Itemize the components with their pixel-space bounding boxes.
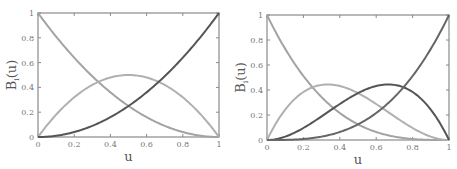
x-axis-label: u xyxy=(124,149,132,164)
x-tick-label: 0.4 xyxy=(104,140,117,149)
x-tick-label: 0 xyxy=(35,140,40,149)
x-tick-label: 1 xyxy=(216,140,221,149)
x-tick-label: 0.6 xyxy=(140,140,153,149)
y-tick-label: 0.6 xyxy=(21,59,34,68)
x-tick-label: 0.4 xyxy=(333,143,346,152)
series-line-b2 xyxy=(267,84,449,140)
bernstein-basis-figure: 00.20.40.60.8100.20.40.60.81uBi(u) 00.20… xyxy=(0,0,457,169)
x-tick-label: 0.2 xyxy=(297,143,310,152)
y-tick-label: 0.2 xyxy=(250,111,263,120)
y-tick-label: 0.6 xyxy=(250,61,263,70)
x-tick-label: 1 xyxy=(446,143,451,152)
cubic-bernstein-chart: 00.20.40.60.8100.20.40.60.81uBi(u) xyxy=(233,11,452,167)
y-tick-label: 0.8 xyxy=(250,36,263,45)
y-tick-label: 1 xyxy=(258,11,263,20)
x-tick-label: 0.2 xyxy=(68,140,81,149)
y-tick-label: 1 xyxy=(29,9,34,18)
x-tick-label: 0.6 xyxy=(370,143,383,152)
x-tick-label: 0.8 xyxy=(406,143,419,152)
series-line-b0 xyxy=(267,15,449,140)
x-tick-label: 0.8 xyxy=(176,140,189,149)
series-line-b3 xyxy=(267,15,449,140)
y-tick-label: 0.8 xyxy=(21,34,34,43)
x-tick-label: 0 xyxy=(264,143,269,152)
y-axis-label: Bi(u) xyxy=(4,60,21,91)
y-tick-label: 0.2 xyxy=(21,108,34,117)
y-tick-label: 0.4 xyxy=(250,86,263,95)
y-tick-label: 0.4 xyxy=(21,83,34,92)
quadratic-bernstein-chart: 00.20.40.60.8100.20.40.60.81uBi(u) xyxy=(4,9,222,164)
y-axis-label: Bi(u) xyxy=(233,62,250,93)
y-tick-label: 0 xyxy=(29,133,34,142)
x-axis-label: u xyxy=(354,152,362,167)
y-tick-label: 0 xyxy=(258,136,263,145)
plot-frame xyxy=(267,15,449,140)
